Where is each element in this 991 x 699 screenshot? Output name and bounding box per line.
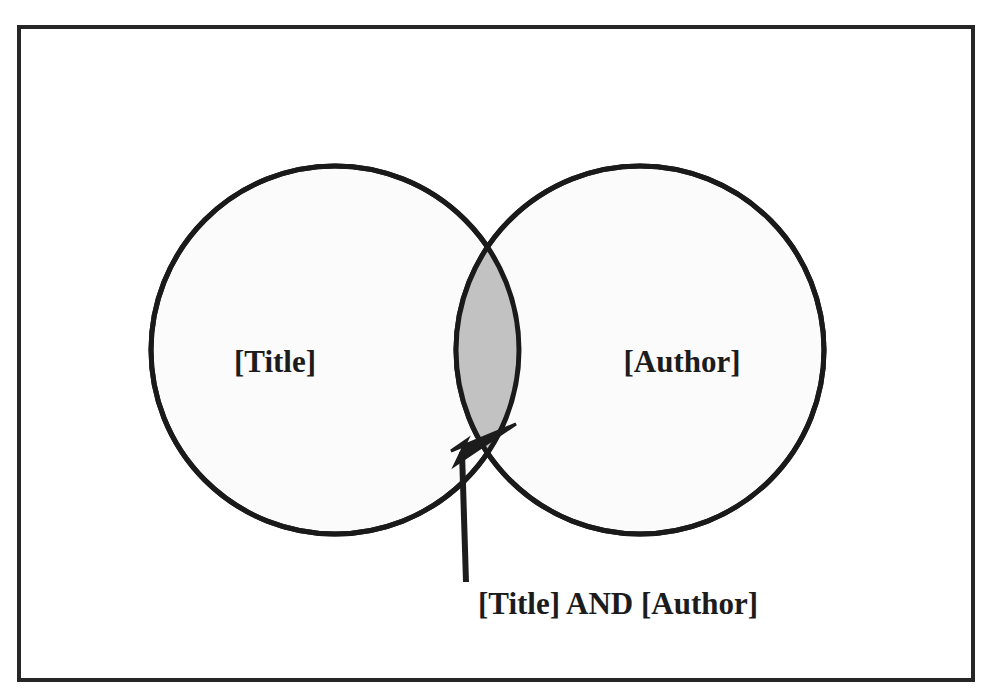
callout-leader-line (462, 452, 466, 582)
figure-page: [Title] [Author] [Title] AND [Author] (0, 0, 991, 699)
set-label-left: [Title] (234, 344, 316, 379)
set-label-right: [Author] (623, 344, 740, 379)
venn-diagram: [Title] [Author] [Title] AND [Author] (0, 0, 991, 699)
intersection-caption: [Title] AND [Author] (478, 586, 758, 621)
